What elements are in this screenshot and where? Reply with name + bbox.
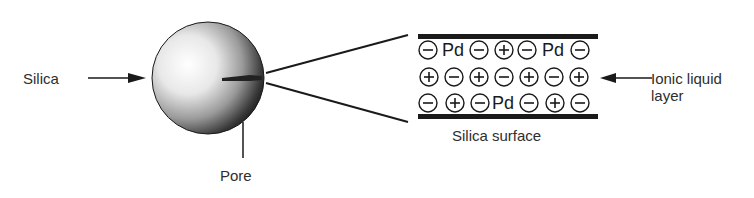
palladium-label: Pd [492, 93, 514, 113]
ionic-liquid-label: Ionic liquid [651, 70, 722, 87]
ionic-liquid-label-line2: layer [651, 87, 684, 104]
diagram-canvas: PdPdPd [0, 0, 754, 198]
anion-icon [419, 94, 437, 112]
anion-icon [471, 94, 489, 112]
ionic-liquid-layer: PdPdPd [419, 40, 589, 113]
top-surface-bar [418, 34, 598, 39]
anion-icon [495, 68, 513, 86]
silica-surface-bar [418, 114, 598, 119]
anion-icon [518, 41, 536, 59]
cation-icon [570, 68, 588, 86]
silica-arrow [88, 73, 146, 83]
anion-icon [470, 41, 488, 59]
silica-surface-label: Silica surface [452, 127, 541, 144]
anion-icon [545, 68, 563, 86]
zoom-line-top [266, 35, 408, 73]
anion-icon [520, 94, 538, 112]
anion-icon [571, 94, 589, 112]
anion-icon [445, 68, 463, 86]
ionic-liquid-arrow [600, 73, 652, 83]
cation-icon [420, 68, 438, 86]
cation-icon [446, 94, 464, 112]
palladium-label: Pd [542, 40, 564, 60]
zoom-line-bottom [266, 83, 408, 122]
cation-icon [546, 94, 564, 112]
anion-icon [571, 41, 589, 59]
palladium-label: Pd [442, 40, 464, 60]
anion-icon [419, 41, 437, 59]
cation-icon [520, 68, 538, 86]
pore-label: Pore [220, 167, 252, 184]
cation-icon [470, 68, 488, 86]
cation-icon [495, 41, 513, 59]
silica-label: Silica [23, 70, 59, 87]
